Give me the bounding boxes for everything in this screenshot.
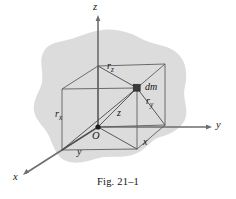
z-axis-label: z [93,2,97,13]
origin-label: O [92,131,100,142]
figure-caption: Fig. 21–1 [0,176,236,187]
rx-label-subscript: x [59,114,62,122]
ry-label: ry [146,96,153,109]
x-axis-arrowhead [23,169,29,175]
dm-marker [133,84,140,91]
figure-drawing [0,0,236,199]
ry-label-subscript: y [150,101,153,109]
x-coordinate-label: x [143,137,147,147]
z-coordinate-label: z [117,108,121,118]
dm-label: dm [145,82,157,92]
rz-label: rz [107,61,114,74]
y-axis-label: y [216,120,221,131]
body-shape [34,29,187,162]
y-coordinate-label: y [77,147,81,157]
origin-marker [95,124,100,129]
rigid-body-blob [34,29,187,162]
figure-container: z y x rz ry rx dm O z x y Fig. 21–1 [0,0,236,199]
y-axis-arrowhead [206,125,212,130]
rz-label-subscript: z [111,66,114,74]
rx-label: rx [55,109,62,122]
z-axis-arrowhead [96,15,101,21]
